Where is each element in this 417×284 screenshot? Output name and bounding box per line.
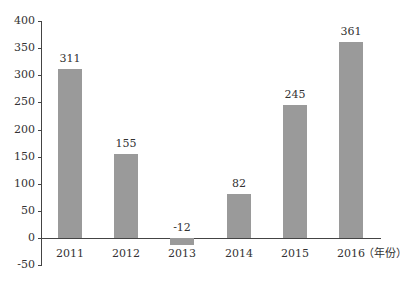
y-tick <box>38 238 42 239</box>
y-tick <box>38 75 42 76</box>
bar-2016 <box>339 42 363 238</box>
y-tick-label: 250 <box>5 96 35 108</box>
x-axis <box>41 238 381 239</box>
bar-2013 <box>170 238 194 245</box>
bar-2012 <box>114 154 138 238</box>
x-tick-label: 2011 <box>42 248 98 260</box>
x-axis-title: （年份） <box>363 248 417 260</box>
y-tick-label: -50 <box>5 259 35 271</box>
y-axis <box>41 21 42 265</box>
data-label: 155 <box>106 138 146 150</box>
y-tick <box>38 184 42 185</box>
y-tick-label: 300 <box>5 69 35 81</box>
data-label: 311 <box>50 53 90 65</box>
bar-2014 <box>227 194 251 238</box>
y-tick-label: 150 <box>5 151 35 163</box>
data-label: 82 <box>219 178 259 190</box>
y-tick <box>38 211 42 212</box>
data-label: 361 <box>331 26 371 38</box>
y-tick <box>38 265 42 266</box>
y-tick <box>38 21 42 22</box>
y-tick-label: 400 <box>5 15 35 27</box>
x-tick-label: 2012 <box>98 248 154 260</box>
data-label: -12 <box>162 222 202 234</box>
bar-chart: 400350300250200150100500-503112011155201… <box>0 0 417 284</box>
bar-2015 <box>283 105 307 238</box>
y-tick-label: 50 <box>5 205 35 217</box>
y-tick-label: 200 <box>5 124 35 136</box>
y-tick <box>38 130 42 131</box>
x-tick-label: 2015 <box>267 248 323 260</box>
y-tick <box>38 48 42 49</box>
y-tick <box>38 102 42 103</box>
x-tick-label: 2013 <box>154 248 210 260</box>
bar-2011 <box>58 69 82 238</box>
y-tick-label: 350 <box>5 42 35 54</box>
y-tick <box>38 157 42 158</box>
y-tick-label: 0 <box>5 232 35 244</box>
data-label: 245 <box>275 89 315 101</box>
x-tick-label: 2014 <box>211 248 267 260</box>
y-tick-label: 100 <box>5 178 35 190</box>
